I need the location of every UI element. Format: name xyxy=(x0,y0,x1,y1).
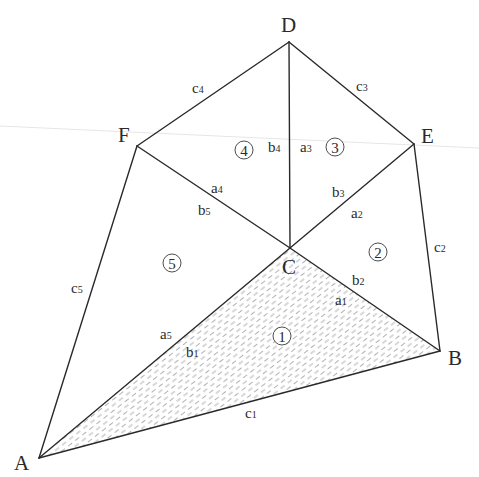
side-label-b2: b2 xyxy=(352,272,365,288)
edge-ED xyxy=(289,42,414,144)
side-label-b4: b4 xyxy=(268,139,281,155)
triangle-number-1: 1 xyxy=(273,327,291,345)
vertex-labels: A B C D E F xyxy=(14,13,462,475)
svg-text:4: 4 xyxy=(240,143,248,159)
triangle-1-hatched-fill xyxy=(39,248,440,458)
side-label-c5: c5 xyxy=(71,280,83,296)
vertex-label-F: F xyxy=(118,123,130,147)
edge-DF xyxy=(137,42,289,146)
pentagon-triangulation-diagram: A B C D E F c1 c2 c3 c4 c5 a1 b2 a2 b3 a… xyxy=(0,0,479,477)
edge-CE xyxy=(290,144,414,248)
vertex-label-D: D xyxy=(281,13,296,37)
side-label-c3: c3 xyxy=(356,78,368,94)
side-label-b3: b3 xyxy=(332,184,345,200)
side-label-a5: a5 xyxy=(160,326,172,342)
svg-text:2: 2 xyxy=(374,245,382,261)
vertex-label-E: E xyxy=(421,124,434,148)
side-label-b5: b5 xyxy=(198,202,211,218)
side-label-a3: a3 xyxy=(300,139,312,155)
side-label-a2: a2 xyxy=(351,205,363,221)
vertex-label-C: C xyxy=(282,255,296,279)
vertex-label-A: A xyxy=(14,451,30,475)
side-label-c4: c4 xyxy=(192,80,204,96)
side-label-c1: c1 xyxy=(245,405,257,421)
svg-text:3: 3 xyxy=(331,140,339,156)
triangle-number-2: 2 xyxy=(369,243,387,261)
vertex-label-B: B xyxy=(448,346,462,370)
side-label-c2: c2 xyxy=(434,239,446,255)
side-label-a4: a4 xyxy=(211,180,223,196)
svg-text:1: 1 xyxy=(278,329,286,345)
triangle-number-5: 5 xyxy=(163,254,181,272)
svg-text:5: 5 xyxy=(168,256,176,272)
triangle-number-4: 4 xyxy=(235,141,253,159)
edge-CF xyxy=(137,146,290,248)
triangle-number-3: 3 xyxy=(326,138,344,156)
edge-CD xyxy=(289,42,290,248)
